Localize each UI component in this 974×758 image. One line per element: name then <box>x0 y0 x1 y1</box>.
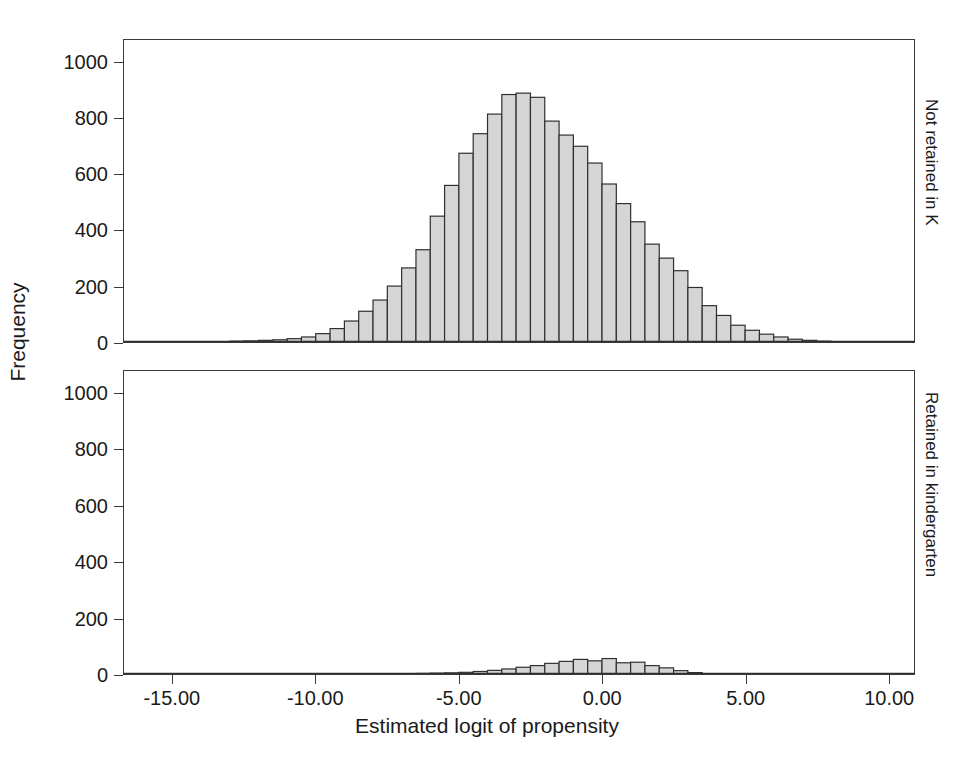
y-tick-mark <box>114 675 123 676</box>
histogram-bar <box>530 97 544 342</box>
histogram-bar <box>659 258 673 342</box>
histogram-bar <box>602 184 616 342</box>
y-tick-mark <box>114 343 123 344</box>
histogram-bar <box>588 661 602 674</box>
y-tick-label: 400 <box>36 220 108 240</box>
histogram-bar <box>731 325 745 342</box>
y-tick-label: 800 <box>36 108 108 128</box>
y-tick-mark <box>114 393 123 394</box>
y-tick-mark <box>114 449 123 450</box>
x-tick-label: 0.00 <box>542 687 662 709</box>
histogram-bar <box>473 134 487 342</box>
histogram-figure: 0200400600800100002004006008001000 -15.0… <box>0 0 974 758</box>
histogram-bar <box>602 659 616 674</box>
y-tick-label: 1000 <box>36 383 108 403</box>
x-tick-label: -10.00 <box>255 687 375 709</box>
y-tick-label: 400 <box>36 552 108 572</box>
x-axis-title: Estimated logit of propensity <box>0 714 974 738</box>
histogram-bar <box>445 185 459 342</box>
panel-strip-label-top: Not retained in K <box>921 99 941 226</box>
histogram-bar <box>330 329 344 342</box>
histogram-bar <box>674 271 688 342</box>
histogram-bar <box>488 114 502 342</box>
histogram-bar <box>359 311 373 342</box>
histogram-bar <box>645 666 659 674</box>
y-axis-title: Frequency <box>6 232 30 432</box>
x-tick-mark <box>889 675 890 684</box>
histogram-bar <box>502 95 516 342</box>
histogram-bar <box>416 250 430 342</box>
x-tick-mark <box>172 675 173 684</box>
histogram-bar <box>559 661 573 674</box>
y-tick-label: 600 <box>36 164 108 184</box>
histogram-bar <box>573 659 587 674</box>
histogram-bar <box>545 121 559 342</box>
histogram-bar <box>688 287 702 342</box>
y-tick-label: 600 <box>36 496 108 516</box>
histogram-bar <box>717 315 731 342</box>
histogram-bar <box>573 146 587 342</box>
histogram-bar <box>316 334 330 342</box>
x-tick-mark <box>746 675 747 684</box>
y-tick-mark <box>114 62 123 63</box>
histogram-bar <box>588 163 602 342</box>
y-tick-label: 0 <box>36 665 108 685</box>
y-tick-label: 0 <box>36 333 108 353</box>
y-tick-label: 800 <box>36 439 108 459</box>
histogram-bar <box>616 663 630 674</box>
y-tick-mark <box>114 230 123 231</box>
histogram-bar <box>559 135 573 342</box>
panel-strip-label-bottom: Retained in kindergarten <box>921 392 941 577</box>
x-tick-label: 10.00 <box>829 687 949 709</box>
x-tick-mark <box>459 675 460 684</box>
x-tick-label: -5.00 <box>399 687 519 709</box>
x-tick-mark <box>602 675 603 684</box>
histogram-bar <box>545 663 559 674</box>
histogram-bar <box>459 153 473 342</box>
panel-not-retained <box>123 39 915 343</box>
x-tick-label: 5.00 <box>686 687 806 709</box>
y-tick-mark <box>114 174 123 175</box>
y-tick-mark <box>114 619 123 620</box>
histogram-bar <box>631 662 645 674</box>
y-tick-label: 200 <box>36 277 108 297</box>
histogram-top-plot <box>124 40 914 342</box>
y-tick-label: 200 <box>36 609 108 629</box>
histogram-bar <box>344 321 358 342</box>
histogram-bar <box>402 268 416 342</box>
y-tick-mark <box>114 506 123 507</box>
y-tick-label: 1000 <box>36 52 108 72</box>
y-tick-mark <box>114 118 123 119</box>
x-tick-label: -15.00 <box>112 687 232 709</box>
y-tick-mark <box>114 562 123 563</box>
panel-retained <box>123 370 915 675</box>
histogram-bar <box>430 216 444 342</box>
histogram-bar <box>645 244 659 342</box>
histogram-bar <box>516 93 530 342</box>
x-tick-mark <box>315 675 316 684</box>
histogram-bar <box>745 330 759 342</box>
histogram-bar <box>530 666 544 674</box>
histogram-bar <box>631 222 645 342</box>
histogram-bar <box>616 204 630 342</box>
histogram-bottom-plot <box>124 371 914 674</box>
histogram-bar <box>387 286 401 342</box>
y-tick-mark <box>114 287 123 288</box>
histogram-bar <box>702 306 716 342</box>
histogram-bar <box>373 300 387 342</box>
